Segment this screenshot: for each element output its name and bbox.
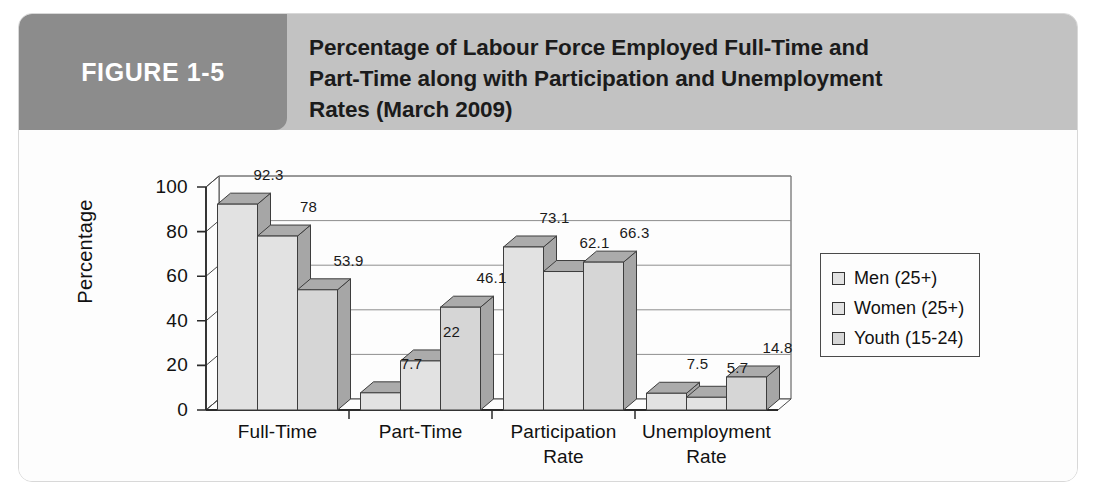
bar-value-label: 78 bbox=[300, 198, 317, 215]
x-axis-category-label: Full-Time bbox=[206, 419, 349, 444]
legend-item[interactable]: Youth (15-24) bbox=[832, 323, 979, 353]
y-axis-tick-label: 80 bbox=[166, 221, 188, 243]
figure-header: FIGURE 1-5 Percentage of Labour Force Em… bbox=[19, 14, 1078, 130]
chart-legend: Men (25+)Women (25+)Youth (15-24) bbox=[820, 253, 980, 357]
bar-2-0[interactable] bbox=[298, 279, 351, 410]
legend-swatch-icon bbox=[832, 302, 845, 315]
bar-value-label: 73.1 bbox=[540, 209, 570, 226]
y-axis-tick-label: 0 bbox=[177, 399, 188, 421]
y-axis-tick-label: 20 bbox=[166, 354, 188, 376]
legend-swatch-icon bbox=[832, 332, 845, 345]
y-axis-tick-label: 40 bbox=[166, 310, 188, 332]
legend-label: Men (25+) bbox=[854, 268, 937, 289]
bar-value-label: 66.3 bbox=[620, 224, 650, 241]
figure-title-line-1: Percentage of Labour Force Employed Full… bbox=[309, 32, 1054, 63]
bar-value-label: 46.1 bbox=[477, 269, 507, 286]
figure-title: Percentage of Labour Force Employed Full… bbox=[309, 32, 1054, 125]
plot-area: 02040608010092.37853.9Full-Time7.72246.1… bbox=[206, 187, 778, 410]
y-axis-title: Percentage bbox=[74, 199, 97, 303]
bar-value-label: 62.1 bbox=[580, 234, 610, 251]
bar-value-label: 53.9 bbox=[334, 252, 364, 269]
figure-title-line-3: Rates (March 2009) bbox=[309, 94, 1054, 125]
bar-value-label: 7.5 bbox=[687, 355, 708, 372]
legend-label: Women (25+) bbox=[854, 298, 964, 319]
bar-value-label: 14.8 bbox=[763, 339, 793, 356]
figure-number-badge: FIGURE 1-5 bbox=[19, 14, 287, 130]
bar-value-label: 5.7 bbox=[727, 359, 748, 376]
legend-item[interactable]: Men (25+) bbox=[832, 263, 979, 293]
figure-number-label: FIGURE 1-5 bbox=[81, 58, 225, 87]
chart-svg bbox=[206, 176, 793, 412]
x-axis-category-label: Participation Rate bbox=[492, 419, 635, 469]
chart-canvas: Percentage 02040608010092.37853.9Full-Ti… bbox=[19, 130, 1078, 482]
bar-value-label: 22 bbox=[443, 323, 460, 340]
legend-label: Youth (15-24) bbox=[854, 328, 964, 349]
legend-item[interactable]: Women (25+) bbox=[832, 293, 979, 323]
y-axis-tick-label: 60 bbox=[166, 265, 188, 287]
bar-2-2[interactable] bbox=[584, 251, 637, 410]
bar-value-label: 7.7 bbox=[401, 355, 422, 372]
bar-2-1[interactable] bbox=[441, 296, 494, 410]
x-axis-category-label: Unemployment Rate bbox=[635, 419, 778, 469]
y-axis-tick-label: 100 bbox=[155, 176, 188, 198]
figure-title-line-2: Part-Time along with Participation and U… bbox=[309, 63, 1054, 94]
bar-value-label: 92.3 bbox=[254, 166, 284, 183]
x-axis-category-label: Part-Time bbox=[349, 419, 492, 444]
figure-container: FIGURE 1-5 Percentage of Labour Force Em… bbox=[18, 13, 1078, 482]
legend-swatch-icon bbox=[832, 272, 845, 285]
